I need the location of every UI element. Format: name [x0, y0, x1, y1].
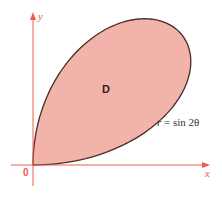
- region-d-fill: [33, 19, 191, 165]
- y-axis-label: y: [38, 11, 43, 22]
- y-axis-arrow-icon: [30, 12, 36, 20]
- equation-lhs: r: [157, 116, 161, 128]
- x-axis-label: x: [205, 168, 210, 179]
- origin-label: 0: [23, 168, 29, 178]
- polar-plot: [0, 0, 222, 202]
- region-label: D: [102, 84, 110, 95]
- curve-equation: r = sin 2θ: [157, 117, 199, 128]
- equation-rhs: sin 2θ: [173, 116, 199, 128]
- equation-equals: =: [164, 116, 170, 128]
